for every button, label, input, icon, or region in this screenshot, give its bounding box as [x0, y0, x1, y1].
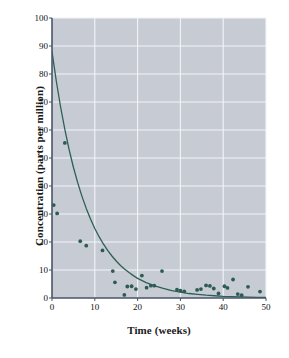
data-point [175, 288, 179, 292]
data-point [179, 289, 183, 293]
data-point [226, 286, 230, 290]
data-point [160, 269, 164, 273]
data-point [199, 287, 203, 291]
data-point [125, 285, 129, 289]
plot-area [0, 0, 289, 358]
data-point [113, 280, 117, 284]
data-point [55, 212, 59, 216]
data-point [195, 288, 199, 292]
concentration-vs-time-chart: Concentration (parts per million) Time (… [0, 0, 289, 358]
data-point [258, 290, 262, 294]
data-point [204, 284, 208, 288]
data-point [122, 293, 126, 297]
data-point [152, 284, 156, 288]
data-point [236, 292, 240, 296]
data-point [140, 274, 144, 278]
data-point [101, 249, 105, 253]
data-point [212, 287, 216, 291]
data-point [246, 285, 250, 289]
data-point [130, 284, 134, 288]
data-point [208, 284, 212, 288]
data-point [63, 141, 67, 145]
data-point [182, 289, 186, 293]
data-point [145, 286, 149, 290]
data-point [134, 287, 138, 291]
data-point [149, 284, 153, 288]
data-point [111, 269, 115, 273]
data-point [84, 244, 88, 248]
data-point [240, 293, 244, 297]
data-point [231, 278, 235, 282]
data-point [78, 239, 82, 243]
data-point [217, 292, 221, 296]
